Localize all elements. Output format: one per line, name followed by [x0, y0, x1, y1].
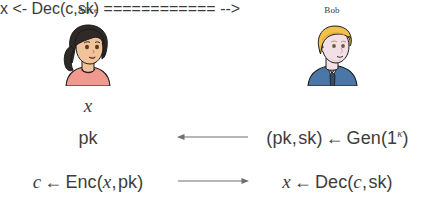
row-encrypt-decrypt: c←Enc(x,pk) x←Dec(c,sk)	[0, 168, 425, 194]
expr-alice-encrypt: c←Enc(x,pk)	[33, 172, 143, 191]
party-bob: Bob	[272, 4, 392, 86]
row-key-generation: pk (pk,sk)←Gen(1κ)	[0, 124, 425, 150]
expr-bob-keygen: (pk,sk)←Gen(1κ)	[266, 128, 408, 147]
party-label-alice: Alice	[28, 4, 148, 16]
function-enc: Enc	[65, 172, 96, 192]
symbol-c: c	[33, 171, 42, 192]
bob-avatar	[305, 22, 359, 86]
symbol-pk-pair: pk	[272, 128, 291, 148]
symbol-x-dec: x	[282, 171, 291, 192]
cell-bob-decrypt: x←Dec(c,sk)	[250, 172, 425, 191]
cell-channel-pk	[176, 131, 250, 143]
function-dec: Dec	[315, 172, 347, 192]
assign-arrow-keygen: ←	[322, 128, 346, 148]
expr-alice-pk: pk	[78, 128, 97, 147]
cell-alice-pk: pk	[0, 128, 176, 147]
literal-one: 1	[387, 128, 397, 148]
paren-close-dec: )	[387, 172, 393, 192]
arg-pk-enc: pk	[118, 172, 137, 192]
cell-alice-input: x	[0, 96, 176, 115]
party-alice: Alice	[28, 4, 148, 86]
expr-bob-decrypt: x←Dec(c,sk)	[282, 172, 392, 191]
cell-channel-ciphertext	[176, 175, 250, 187]
paren-close-2: )	[403, 128, 409, 148]
symbol-sk-pair: sk	[298, 128, 316, 148]
cell-alice-encrypt: c←Enc(x,pk)	[0, 172, 176, 191]
expr-alice-input: x	[84, 96, 93, 115]
party-label-bob: Bob	[272, 4, 392, 16]
arrow-right-c	[176, 175, 250, 187]
assign-arrow-enc: ←	[41, 172, 65, 192]
protocol-diagram: Alice	[0, 0, 425, 209]
row-alice-input: x	[0, 92, 425, 118]
symbol-pk: pk	[78, 128, 97, 148]
alice-avatar	[61, 22, 115, 86]
arrow-left-pk	[176, 131, 250, 143]
paren-close-enc: )	[137, 172, 143, 192]
function-gen: Gen	[347, 128, 381, 148]
assign-arrow-dec: ←	[291, 172, 315, 192]
symbol-x: x	[84, 95, 93, 116]
cell-bob-keygen: (pk,sk)←Gen(1κ)	[250, 128, 425, 147]
arg-c-dec: c	[353, 171, 362, 192]
arg-sk-dec: sk	[368, 172, 386, 192]
